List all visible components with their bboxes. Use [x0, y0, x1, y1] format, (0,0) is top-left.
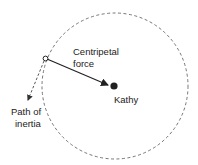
- force-label: Centripetal force: [73, 46, 119, 70]
- centripetal-force-diagram: Centripetal force Kathy Path of inertia: [0, 0, 198, 165]
- inertia-label: Path of inertia: [11, 106, 41, 130]
- diagram-graphics: [0, 0, 198, 165]
- inertia-path-arrow: [28, 61, 44, 100]
- inertia-label-line1: Path of: [11, 106, 41, 118]
- kathy-label: Kathy: [114, 94, 138, 106]
- kathy-dot: [110, 82, 117, 89]
- inertia-label-line2: inertia: [11, 118, 41, 130]
- force-label-line1: Centripetal: [73, 46, 119, 58]
- force-label-line2: force: [73, 58, 119, 70]
- object-marker: [43, 56, 48, 61]
